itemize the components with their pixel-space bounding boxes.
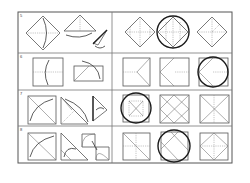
row-label: 8	[20, 127, 23, 132]
answer-option[interactable]	[197, 17, 227, 47]
step-figure	[74, 61, 103, 81]
answer-option[interactable]	[125, 17, 155, 47]
answer-option[interactable]	[200, 95, 229, 123]
step-figure	[93, 30, 107, 48]
answer-option[interactable]	[121, 93, 151, 123]
step-figure	[93, 96, 107, 121]
worksheet: 5 6 7 8	[0, 0, 250, 183]
answer-option[interactable]	[123, 58, 150, 86]
row-label: 6	[20, 54, 23, 59]
step-figure	[26, 16, 60, 50]
step-figure	[33, 58, 63, 86]
answer-option[interactable]	[160, 58, 189, 86]
answer-option[interactable]	[198, 57, 228, 87]
step-figure	[28, 96, 56, 124]
answer-option[interactable]	[200, 133, 228, 160]
answer-option[interactable]	[123, 133, 150, 160]
row-label: 7	[20, 91, 23, 96]
row-label: 5	[20, 13, 23, 18]
step-figure	[61, 97, 88, 124]
step-figure	[64, 15, 96, 37]
answer-option[interactable]	[160, 95, 189, 123]
step-figure	[28, 133, 56, 160]
answer-option[interactable]	[158, 130, 190, 162]
answer-option[interactable]	[157, 16, 189, 48]
step-figure	[82, 134, 109, 160]
